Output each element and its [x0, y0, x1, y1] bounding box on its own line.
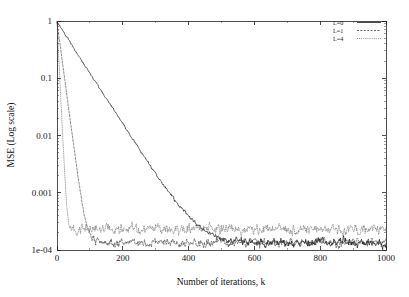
y-tick-label: 1	[48, 16, 53, 26]
chart-background	[0, 0, 409, 297]
y-tick-label: 0.1	[41, 73, 52, 83]
x-tick-label: 600	[248, 253, 262, 263]
y-tick-label: 0.001	[32, 188, 52, 198]
x-tick-label: 400	[182, 253, 196, 263]
legend-label-l4: L=4	[333, 35, 343, 42]
x-axis-title: Number of iterations, k	[177, 277, 266, 287]
mse-convergence-chart: 10.10.010.0011e-04 02004006008001000 Num…	[0, 0, 409, 297]
y-tick-label: 1e-04	[32, 245, 53, 255]
x-tick-label: 1000	[377, 253, 396, 263]
y-tick-label: 0.01	[36, 131, 52, 141]
x-tick-label: 0	[55, 253, 60, 263]
legend-label-l0: L=0	[333, 19, 343, 26]
legend-label-l1: L=1	[333, 27, 343, 34]
x-tick-label: 200	[116, 253, 130, 263]
x-tick-label: 800	[313, 253, 327, 263]
y-axis-title: MSE (Log scale)	[6, 103, 17, 168]
figure-container: 10.10.010.0011e-04 02004006008001000 Num…	[0, 0, 409, 297]
